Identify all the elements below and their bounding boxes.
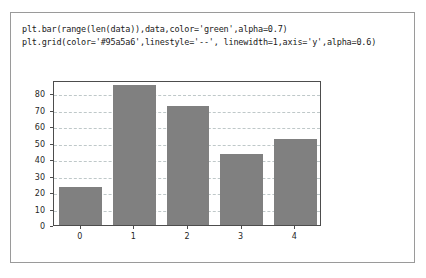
- y-tick-mark: [50, 177, 53, 178]
- plot-frame: [53, 81, 321, 226]
- bar: [59, 187, 102, 225]
- y-tick-mark: [50, 193, 53, 194]
- y-tick-label: 50: [21, 139, 45, 148]
- x-tick-mark: [241, 226, 242, 229]
- x-tick-mark: [187, 226, 188, 229]
- y-tick-mark: [50, 226, 53, 227]
- bars-layer: [54, 82, 320, 225]
- y-tick-label: 0: [21, 222, 45, 231]
- bar: [113, 85, 156, 225]
- bar-chart: 01020304050607080 01234: [21, 61, 406, 256]
- code-line-grid: plt.grid(color='#95a5a6',linestyle='--',…: [22, 36, 412, 49]
- screenshot-root: plt.bar(range(len(data)),data,color='gre…: [0, 0, 426, 278]
- x-tick-mark: [133, 226, 134, 229]
- bar: [167, 106, 210, 225]
- x-tick-mark: [80, 226, 81, 229]
- x-tick-label: 3: [238, 232, 243, 241]
- bar: [220, 154, 263, 225]
- y-tick-label: 30: [21, 172, 45, 181]
- bar: [274, 139, 317, 225]
- y-tick-mark: [50, 94, 53, 95]
- y-tick-label: 60: [21, 123, 45, 132]
- y-tick-label: 70: [21, 106, 45, 115]
- y-tick-label: 40: [21, 156, 45, 165]
- code-snippet: plt.bar(range(len(data)),data,color='gre…: [22, 23, 412, 49]
- x-tick-label: 1: [131, 232, 136, 241]
- y-tick-mark: [50, 210, 53, 211]
- y-tick-mark: [50, 144, 53, 145]
- y-tick-label: 20: [21, 189, 45, 198]
- code-line-bar: plt.bar(range(len(data)),data,color='gre…: [22, 23, 412, 36]
- y-tick-mark: [50, 160, 53, 161]
- x-tick-label: 0: [77, 232, 82, 241]
- y-tick-mark: [50, 127, 53, 128]
- x-tick-label: 4: [292, 232, 297, 241]
- figure-panel: plt.bar(range(len(data)),data,color='gre…: [10, 12, 415, 263]
- y-tick-label: 10: [21, 205, 45, 214]
- y-tick-mark: [50, 111, 53, 112]
- y-tick-label: 80: [21, 90, 45, 99]
- x-tick-mark: [294, 226, 295, 229]
- x-tick-label: 2: [184, 232, 189, 241]
